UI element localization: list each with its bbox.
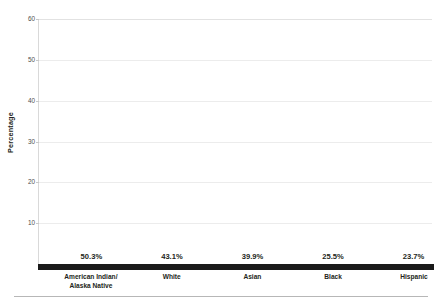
bar-chart-figure: Percentage 60 50 40 30 20 10 50.3%	[0, 0, 440, 305]
bar-value-label: 43.1%	[141, 253, 202, 261]
bar-value-label: 39.9%	[222, 253, 283, 261]
y-axis-title-text: Percentage	[6, 112, 15, 153]
y-axis-title: Percentage	[0, 0, 20, 264]
x-axis-category-labels: American Indian/ Alaska Native White Asi…	[38, 273, 430, 295]
x-tick-label-hispanic: Hispanic	[365, 273, 440, 282]
y-tick-label-20: 20	[28, 179, 35, 185]
y-tick-label-30: 30	[28, 138, 35, 144]
bars-layer: 50.3% 43.1% 39.9% 25.5% 23.7%	[39, 19, 430, 264]
bar-value-label: 50.3%	[61, 253, 122, 261]
y-tick-label-50: 50	[28, 57, 35, 63]
y-tick-label-10: 10	[28, 220, 35, 226]
plot-area: 60 50 40 30 20 10 50.3% 43.1%	[38, 19, 430, 264]
y-tick-label-60: 60	[28, 16, 35, 22]
x-tick-label-line: Alaska Native	[42, 282, 140, 291]
footer-divider	[14, 296, 428, 297]
bar-value-label: 25.5%	[303, 253, 364, 261]
x-tick-label-line: Hispanic	[365, 273, 440, 282]
bar-value-label: 23.7%	[383, 253, 440, 261]
y-tick-label-40: 40	[28, 97, 35, 103]
x-axis-baseline	[38, 264, 434, 270]
